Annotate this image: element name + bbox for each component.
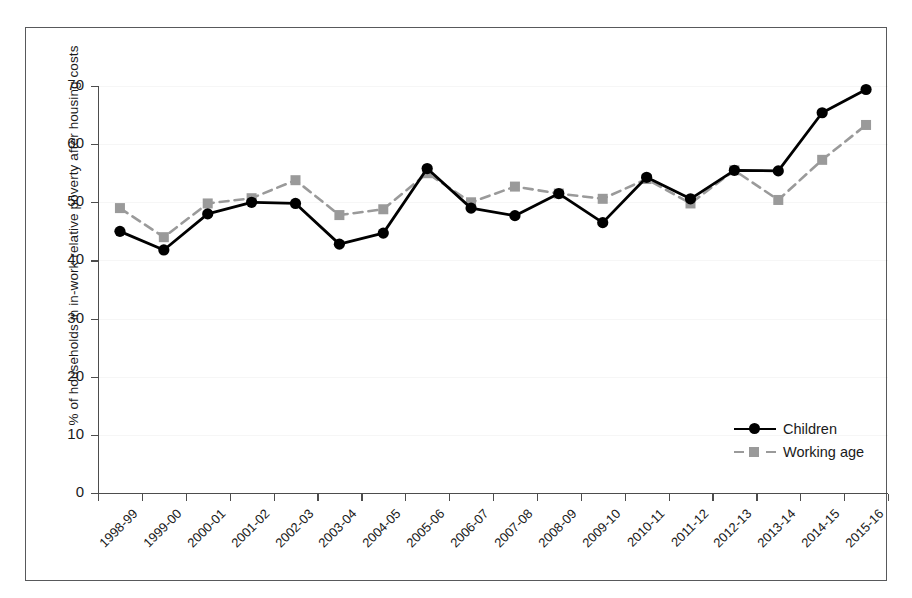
x-axis-tick [712,494,713,501]
x-axis-tick [800,494,801,501]
x-axis-tick [669,494,670,501]
data-point[interactable]: Children 2013-14: 55.4 [773,165,784,176]
y-axis-tick [91,86,98,87]
x-axis-tick-label: 2003-04 [310,506,360,556]
working-age-line-swatch-icon [734,444,776,460]
x-axis-tick [317,494,318,501]
data-point[interactable]: Working age 2003-04: 47.8 [334,210,344,220]
y-axis-tick [91,493,98,494]
data-point[interactable]: Children 2007-08: 47.7 [509,210,520,221]
x-axis-tick-label: 2008-09 [529,506,579,556]
data-point[interactable]: Children 2003-04: 42.8 [334,239,345,250]
y-axis-tick-label: 10 [24,425,84,442]
x-axis-tick [844,494,845,501]
data-point[interactable]: Children 2002-03: 49.8 [290,198,301,209]
legend-label-children: Children [783,421,837,437]
legend-item-children[interactable]: Children [734,417,864,440]
data-point[interactable]: Working age 2007-08: 52.7 [510,182,520,192]
data-point[interactable]: Children 2005-06: 55.8 [422,163,433,174]
x-axis-tick [625,494,626,501]
data-point[interactable]: Children 2000-01: 48 [202,208,213,219]
x-axis-tick-label: 2001-02 [222,506,272,556]
data-point[interactable]: Children 1999-00: 41.8 [158,244,169,255]
x-axis-tick-label: 2006-07 [441,506,491,556]
chart-legend: Children Working age [734,417,864,463]
x-axis-tick [493,494,494,501]
y-axis-tick [91,202,98,203]
x-axis-tick [361,494,362,501]
data-point[interactable]: Working age 2014-15: 57.3 [817,155,827,165]
x-axis-tick [230,494,231,501]
data-point[interactable]: Children 2004-05: 44.7 [378,228,389,239]
plot-area: 010203040506070 1998-991999-002000-01200… [98,59,888,494]
x-axis-tick [449,494,450,501]
x-axis-tick-label: 2012-13 [705,506,755,556]
x-axis-tick [756,494,757,501]
data-point[interactable]: Working age 1999-00: 44 [159,232,169,242]
data-point[interactable]: Children 2001-02: 50 [246,197,257,208]
x-axis-tick-label: 2002-03 [266,506,316,556]
x-axis-tick [142,494,143,501]
y-axis-tick [91,319,98,320]
x-axis-tick [186,494,187,501]
x-axis-tick [537,494,538,501]
y-axis-tick-label: 60 [24,134,84,151]
x-axis-tick-label: 2014-15 [793,506,843,556]
x-axis-tick-label: 2009-10 [573,506,623,556]
data-point[interactable]: Children 1998-99: 45 [114,226,125,237]
children-line-swatch-icon [734,421,776,437]
x-axis-tick-label: 1999-00 [134,506,184,556]
x-axis-tick-label: 2007-08 [485,506,535,556]
x-axis-tick [98,494,99,501]
data-point[interactable]: Children 2006-07: 49 [465,203,476,214]
y-axis-tick-label: 20 [24,367,84,384]
series-line-children [120,89,866,249]
y-axis-tick [91,435,98,436]
y-axis-tick [91,377,98,378]
data-point[interactable]: Working age 2000-01: 49.8 [203,198,213,208]
y-axis-tick-label: 30 [24,309,84,326]
series-line-working-age [120,125,866,237]
data-point[interactable]: Children 2014-15: 65.4 [817,107,828,118]
x-axis-tick [274,494,275,501]
data-point[interactable]: Children 2012-13: 55.5 [729,165,740,176]
chart-figure-frame: % of households in in-work relative pove… [25,27,887,581]
data-point[interactable]: Working age 2002-03: 53.8 [291,175,301,185]
data-point[interactable]: Working age 2013-14: 50.4 [773,195,783,205]
x-axis-tick-label: 2010-11 [617,506,667,556]
data-point[interactable]: Working age 2004-05: 48.8 [378,204,388,214]
data-point[interactable]: Working age 1998-99: 49 [115,203,125,213]
x-axis-tick-label: 2005-06 [398,506,448,556]
x-axis-tick-label: 2011-12 [661,506,711,556]
data-point[interactable]: Working age 2015-16: 63.3 [861,120,871,130]
x-axis-tick-label: 2015-16 [836,506,886,556]
x-axis-tick [888,494,889,501]
data-point[interactable]: Children 2009-10: 46.5 [597,217,608,228]
x-axis-tick-label: 2004-05 [354,506,404,556]
x-axis-tick [405,494,406,501]
y-axis-tick-label: 70 [24,76,84,93]
data-point[interactable]: Children 2008-09: 51.5 [553,188,564,199]
x-axis-tick [581,494,582,501]
legend-item-working-age[interactable]: Working age [734,440,864,463]
y-axis-tick-label: 50 [24,192,84,209]
y-axis-tick [91,144,98,145]
x-axis-tick-label: 1998-99 [90,506,140,556]
data-point[interactable]: Children 2011-12: 50.6 [685,193,696,204]
legend-label-working-age: Working age [783,444,864,460]
data-point[interactable]: Children 2010-11: 54.3 [641,172,652,183]
x-axis-tick-label: 2000-01 [178,506,228,556]
y-axis-tick-label: 0 [24,483,84,500]
y-axis-tick-label: 40 [24,250,84,267]
y-axis-tick [91,260,98,261]
x-axis-tick-label: 2013-14 [749,506,799,556]
data-point[interactable]: Children 2015-16: 69.4 [860,84,871,95]
data-point[interactable]: Working age 2009-10: 50.6 [598,194,608,204]
